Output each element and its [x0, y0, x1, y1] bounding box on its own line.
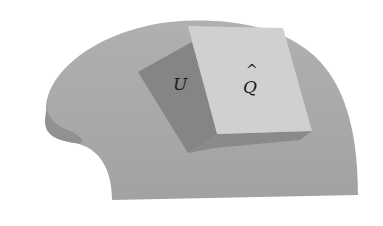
hat-accent: ^	[246, 62, 258, 78]
surface-illustration	[0, 0, 383, 226]
label-q-hat: Q	[243, 77, 257, 97]
surface-diagram: U Q ^	[0, 0, 383, 226]
label-u: U	[173, 74, 187, 94]
